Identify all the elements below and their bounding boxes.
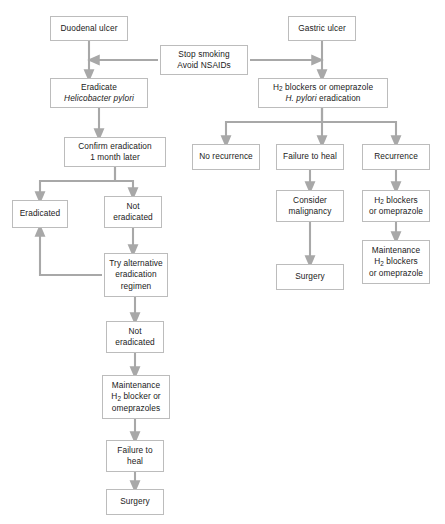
node-surgery-middle[interactable]: Surgery: [276, 264, 344, 290]
node-surgery-left[interactable]: Surgery: [106, 489, 164, 515]
eradicate-line2: Helicobacter pylori: [64, 93, 134, 103]
node-not-eradicated-first[interactable]: Not eradicated: [104, 196, 162, 228]
node-label: MaintenanceH2 blockersor omeprazole: [365, 245, 427, 280]
node-gastric-ulcer[interactable]: Gastric ulcer: [288, 16, 356, 41]
edge-confirm-to-eradicated: [40, 167, 115, 198]
node-h2-blockers-omeprazole-hp-eradication[interactable]: H2 blockers or omeprazoleH. pylori eradi…: [258, 78, 388, 108]
node-confirm-eradication[interactable]: Confirm eradication 1 month later: [64, 137, 166, 167]
node-maintenance-h2-blocker-left[interactable]: MaintenanceH2 blocker oromeprazoles: [102, 375, 170, 419]
edge-h2top-to-norecurrence: [226, 108, 322, 142]
node-maintenance-h2-blockers-right[interactable]: MaintenanceH2 blockersor omeprazole: [362, 240, 430, 284]
node-label: H2 blockersor omeprazole: [365, 195, 427, 218]
node-eradicated[interactable]: Eradicated: [12, 200, 68, 228]
node-label: Duodenal ulcer: [53, 23, 125, 35]
node-label: Consider malignancy: [279, 195, 341, 218]
node-label: Failure to heal: [279, 151, 341, 163]
node-label: Stop smoking Avoid NSAIDs: [163, 49, 245, 72]
node-label: MaintenanceH2 blocker oromeprazoles: [105, 380, 167, 415]
node-no-recurrence[interactable]: No recurrence: [192, 144, 260, 170]
node-label: Eradicated: [15, 208, 65, 220]
node-label: No recurrence: [195, 151, 257, 163]
node-label: Not eradicated: [107, 201, 159, 224]
node-label: H2 blockers or omeprazoleH. pylori eradi…: [261, 82, 385, 105]
node-label: Surgery: [109, 496, 161, 508]
node-failure-to-heal-left[interactable]: Failure to heal: [106, 440, 164, 472]
node-not-eradicated-second[interactable]: Not eradicated: [106, 321, 164, 353]
node-label: Gastric ulcer: [291, 23, 353, 35]
node-label: EradicateHelicobacter pylori: [53, 82, 145, 105]
node-failure-to-heal-right[interactable]: Failure to heal: [276, 144, 344, 170]
node-label: Surgery: [279, 271, 341, 283]
node-label: Confirm eradication 1 month later: [67, 141, 163, 164]
edge-tryalt-to-eradicated-loop: [40, 230, 102, 275]
node-eradicate-helicobacter-pylori[interactable]: EradicateHelicobacter pylori: [50, 78, 148, 108]
node-label: Not eradicated: [109, 326, 161, 349]
eradicate-line1: Eradicate: [81, 82, 117, 92]
node-duodenal-ulcer[interactable]: Duodenal ulcer: [50, 16, 128, 41]
node-label: Failure to heal: [109, 445, 161, 468]
edge-confirm-to-noteradicated: [115, 167, 133, 194]
node-try-alternative-eradication-regimen[interactable]: Try alternative eradication regimen: [104, 253, 168, 297]
node-consider-malignancy[interactable]: Consider malignancy: [276, 190, 344, 222]
node-recurrence[interactable]: Recurrence: [362, 144, 430, 170]
node-label: Try alternative eradication regimen: [107, 258, 165, 293]
node-h2-blockers-or-omeprazole-mid[interactable]: H2 blockersor omeprazole: [362, 190, 430, 222]
flowchart-canvas: Duodenal ulcer Gastric ulcer Stop smokin…: [0, 0, 445, 524]
node-label: Recurrence: [365, 151, 427, 163]
node-stop-smoking-avoid-nsaids[interactable]: Stop smoking Avoid NSAIDs: [160, 45, 248, 75]
edge-h2top-to-recurrence: [322, 108, 396, 142]
